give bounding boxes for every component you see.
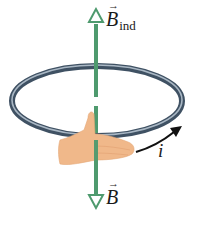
external-field-label: →B (106, 186, 118, 209)
induction-diagram (0, 0, 200, 234)
induced-field-arrowhead-icon (89, 9, 103, 22)
external-field-arrowhead-icon (89, 195, 103, 208)
induced-field-label: →Bind (106, 8, 136, 34)
current-label: i (158, 140, 163, 162)
